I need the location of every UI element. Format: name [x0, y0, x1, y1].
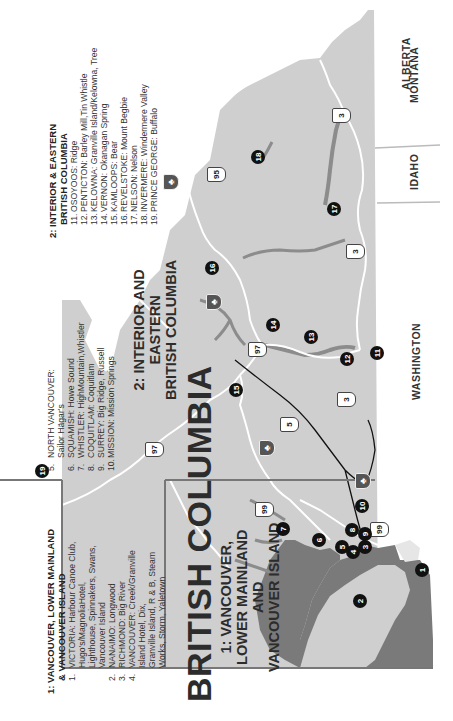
marker-12[interactable]: 12 [340, 352, 354, 366]
region-label-1-line: 1: VANCOUVER, [218, 522, 234, 672]
legend-entry-5: 5.NORTH VANCOUVER: Sailor Hägar's [46, 322, 66, 471]
highway-shield-3-central: 3 [346, 244, 365, 259]
trans-canada-highway-icon: ♣ [206, 294, 222, 310]
marker-19[interactable]: 19 [35, 464, 49, 478]
legend-region-2: 2: INTERIOR & EASTERN BRITISH COLUMBIA 1… [47, 48, 159, 238]
trans-canada-highway-icon: ♣ [163, 174, 179, 190]
marker-3[interactable]: 3 [358, 540, 372, 554]
legend-region-1-continued: 5.NORTH VANCOUVER: Sailor Hägar's 6.SQUA… [46, 322, 116, 471]
legend-entry-12: 12.PENTICTON: Barley Mill,Tin Whistle [79, 48, 89, 238]
label-idaho: IDAHO [408, 154, 420, 190]
legend-entry-13: 13.KELOWNA: Granville Island/Kelowna, Tr… [89, 48, 99, 238]
highway-shield-97: 97 [145, 442, 164, 457]
legend-entry-15: 15.KAMLOOPS: Bear [109, 48, 119, 238]
legend-entry-8: 8.COQUITLAM: Coquitlam [86, 322, 96, 471]
highway-shield-97-vernon: 97 [248, 342, 267, 357]
legend-entry-17: 17.NELSON: Nelson [129, 48, 139, 238]
legend-entry-11: 11.OSOYOOS: Ridge [69, 48, 79, 238]
marker-18[interactable]: 18 [251, 150, 265, 164]
marker-7[interactable]: 7 [276, 522, 290, 536]
marker-5[interactable]: 5 [335, 540, 349, 554]
label-montana: MONTANA [408, 47, 420, 103]
marker-2[interactable]: 2 [353, 594, 367, 608]
marker-1[interactable]: 1 [415, 563, 429, 577]
legend-entry-10: 10.MISSION: Mission Springs [106, 322, 116, 471]
marker-8[interactable]: 8 [345, 523, 359, 537]
marker-10[interactable]: 10 [355, 499, 369, 513]
legend-entry-1: 1.VICTORIA: Harbour Canoe Club, Hugo's/M… [67, 529, 107, 694]
legend-entry-19: 19.PRINCE GEORGE: Buffalo [149, 48, 159, 238]
region-label-2-line: EASTERN [147, 260, 163, 400]
marker-9[interactable]: 9 [358, 527, 372, 541]
map-title: BRITISH COLUMBIA [180, 365, 219, 702]
legend-entry-4: 4.VANCOUVER: Creek/Granville Island Hote… [127, 529, 167, 694]
region-label-2-line: BRITISH COLUMBIA [163, 260, 179, 400]
legend-entry-3: 3.RICHMOND: Big River [117, 529, 127, 694]
legend-entry-6: 6.SQUAMISH: Howe Sound [66, 322, 76, 471]
region-label-1-line: VANCOUVER ISLAND [266, 522, 282, 672]
highway-shield-3-east: 3 [332, 108, 351, 123]
legend-region-1: 1: VANCOUVER, LOWER MAINLAND & VANCOUVER… [45, 529, 167, 694]
marker-6[interactable]: 6 [312, 533, 326, 547]
highway-shield-3-west: 3 [337, 392, 356, 407]
trans-canada-highway-icon: ♣ [355, 473, 371, 489]
marker-17[interactable]: 17 [327, 202, 341, 216]
legend-entry-7: 7.WHISTLER: HighMountain,Whistler [76, 322, 86, 471]
highway-shield-99-south: 99 [370, 522, 389, 537]
marker-11[interactable]: 11 [370, 346, 384, 360]
legend-entry-16: 16.REVELSTOKE: Mount Begbie [119, 48, 129, 238]
marker-16[interactable]: 16 [205, 261, 219, 275]
region-label-2-line: 2: INTERIOR AND [131, 260, 147, 400]
marker-14[interactable]: 14 [266, 318, 280, 332]
legend-region-1-title: 1: VANCOUVER, LOWER MAINLAND & VANCOUVER… [45, 529, 67, 694]
legend-entry-9: 9.SURREY: Big Ridge, Russell [96, 322, 106, 471]
legend-entry-18: 18.INVERMERE: Windermere Valley [139, 48, 149, 238]
trans-canada-highway-icon: ♣ [259, 440, 275, 456]
label-washington: WASHINGTON [410, 323, 422, 400]
region-label-1-line: AND [250, 522, 266, 672]
legend-entry-2: 2.NANAIMO: Longwood [107, 529, 117, 694]
marker-13[interactable]: 13 [304, 330, 318, 344]
highway-shield-95: 95 [207, 167, 226, 182]
highway-shield-99: 99 [255, 502, 274, 517]
region-label-1-line: LOWER MAINLAND [234, 522, 250, 672]
region-label-1: 1: VANCOUVER, LOWER MAINLAND AND VANCOUV… [218, 522, 282, 672]
marker-15[interactable]: 15 [229, 383, 243, 397]
legend-region-2-title: 2: INTERIOR & EASTERN BRITISH COLUMBIA [47, 48, 69, 238]
highway-shield-5: 5 [280, 417, 299, 432]
region-label-2: 2: INTERIOR AND EASTERN BRITISH COLUMBIA [131, 260, 179, 400]
legend-entry-14: 14.VERNON: Okanagan Spring [99, 48, 109, 238]
